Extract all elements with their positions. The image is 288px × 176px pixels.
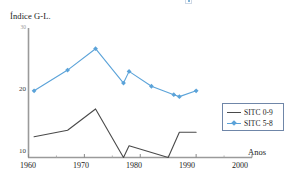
legend-label-sitc-0-9: SITC 0-9 bbox=[244, 108, 273, 117]
series-sitc-5-8 bbox=[32, 46, 199, 99]
chart-container: Índice G-L. Anos 30 20 10 1960 1970 1980… bbox=[0, 0, 288, 176]
legend-line-icon-dark bbox=[226, 107, 242, 117]
data-point bbox=[171, 92, 176, 97]
series-sitc-0-9 bbox=[34, 109, 196, 158]
legend-line-icon-blue bbox=[226, 118, 242, 128]
plot-area bbox=[0, 0, 288, 176]
legend-item-sitc-5-8: SITC 5-8 bbox=[226, 117, 273, 129]
legend: SITC 0-9 SITC 5-8 bbox=[222, 103, 284, 131]
data-point bbox=[194, 88, 199, 93]
axis-lines bbox=[28, 28, 252, 158]
data-point bbox=[177, 94, 182, 99]
legend-label-sitc-5-8: SITC 5-8 bbox=[244, 119, 273, 128]
